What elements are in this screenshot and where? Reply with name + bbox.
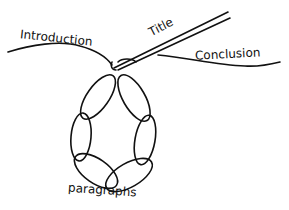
link-1 [74,69,122,124]
introduction-strand [8,43,112,65]
diagram-canvas: Introduction Title Conclusion paragraphs [0,0,289,210]
link-2 [111,70,156,126]
